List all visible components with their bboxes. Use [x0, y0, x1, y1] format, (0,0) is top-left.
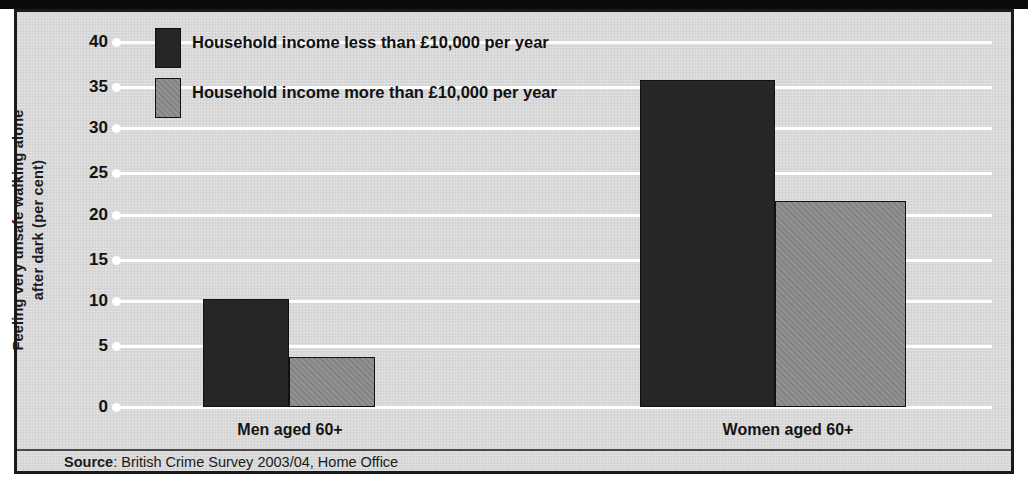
gridline-dot-5: [112, 342, 121, 351]
gridline-30: [118, 127, 992, 130]
y-tick-label-40: 40: [62, 32, 108, 52]
y-axis-title: Feeling very unsafe walking alone after …: [8, 60, 48, 400]
y-tick-label-0: 0: [62, 397, 108, 417]
legend-swatch-low-income: [155, 28, 181, 68]
x-category-label-men: Men aged 60+: [200, 421, 380, 439]
y-tick-label-5: 5: [62, 336, 108, 356]
gridline-dot-35: [112, 83, 121, 92]
gridline-dot-20: [112, 211, 121, 220]
bar-women-high-income: [775, 201, 906, 407]
source-note: Source: British Crime Survey 2003/04, Ho…: [64, 454, 398, 470]
footer-divider: [17, 449, 1011, 451]
gridline-dot-0: [112, 403, 121, 412]
y-tick-label-30: 30: [62, 118, 108, 138]
gridline-25: [118, 172, 992, 175]
legend-swatch-high-income: [155, 78, 181, 118]
y-tick-label-15: 15: [62, 250, 108, 270]
legend-label-low-income: Household income less than £10,000 per y…: [192, 33, 549, 52]
gridline-dot-25: [112, 169, 121, 178]
gridline-dot-15: [112, 256, 121, 265]
gridline-dot-10: [112, 297, 121, 306]
source-label: Source: [64, 454, 113, 470]
y-tick-label-35: 35: [62, 77, 108, 97]
chart-figure: Feeling very unsafe walking alone after …: [0, 0, 1028, 492]
bar-men-high-income: [289, 357, 375, 407]
x-category-label-women: Women aged 60+: [688, 421, 888, 439]
gridline-dot-30: [112, 124, 121, 133]
bar-men-low-income: [203, 299, 289, 407]
y-tick-label-10: 10: [62, 291, 108, 311]
gridline-dot-40: [112, 38, 121, 47]
source-text: British Crime Survey 2003/04, Home Offic…: [121, 454, 398, 470]
y-tick-label-20: 20: [62, 205, 108, 225]
plot-area: Feeling very unsafe walking alone after …: [0, 0, 1028, 492]
legend-label-high-income: Household income more than £10,000 per y…: [192, 83, 557, 102]
y-tick-label-25: 25: [62, 163, 108, 183]
bar-women-low-income: [640, 80, 775, 407]
y-axis-title-line2: after dark (per cent): [28, 60, 48, 400]
y-axis-title-line1: Feeling very unsafe walking alone: [8, 60, 28, 400]
